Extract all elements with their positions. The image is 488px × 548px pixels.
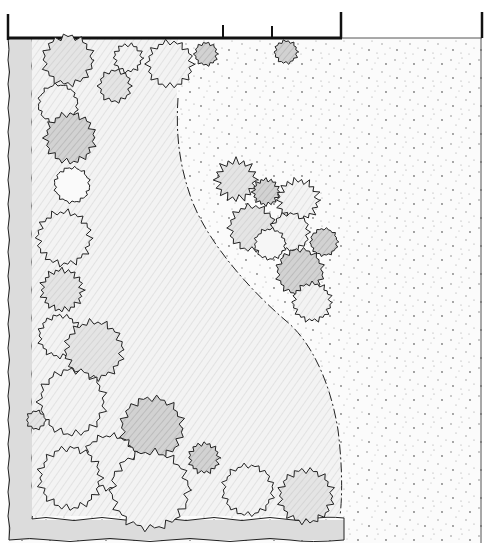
island-shrub — [251, 178, 280, 207]
landscape-plan — [0, 0, 488, 548]
top-wall — [8, 12, 482, 40]
